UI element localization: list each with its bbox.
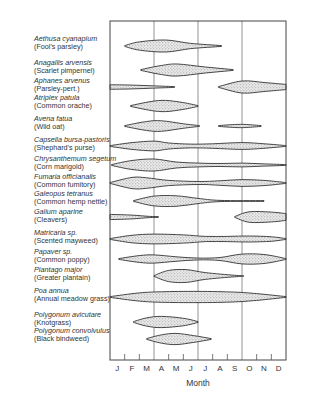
species-label: Anagallis arvensis(Scarlet pimpernel)	[34, 59, 95, 75]
month-tick-label: A	[217, 364, 223, 373]
germination-band	[154, 269, 244, 282]
species-label: Chrysanthemum segetum(Corn marigold)	[34, 155, 116, 171]
germination-band	[219, 124, 262, 127]
germination-band	[147, 333, 212, 344]
species-label: Avena fatua(Wild oat)	[34, 115, 72, 131]
species-common-name: (Wild oat)	[34, 123, 72, 131]
month-tick-label: S	[232, 364, 237, 373]
germination-band	[112, 159, 287, 171]
germination-band	[125, 40, 222, 52]
germination-band	[125, 121, 200, 132]
germination-band	[219, 81, 287, 93]
month-tick-label: J	[189, 364, 193, 373]
x-tick-labels: JFMAMJJASOND	[115, 364, 281, 373]
species-label: Matricaria sp.(Scented mayweed)	[34, 229, 98, 245]
species-common-name: (Common fumitory)	[34, 181, 96, 189]
germination-band	[134, 195, 265, 206]
species-common-name: (Greater plantain)	[34, 274, 90, 282]
month-tick-label: J	[203, 364, 207, 373]
species-label: Galeopus tetranus(Common hemp nettle)	[34, 190, 108, 206]
month-tick-label: D	[276, 364, 282, 373]
month-tick-label: J	[115, 364, 119, 373]
month-tick-label: M	[173, 364, 180, 373]
species-common-name: (Annual meadow grass)	[34, 295, 110, 303]
species-label: Atriplex patula(Common orache)	[34, 94, 92, 110]
species-label: Galium aparine(Cleavers)	[34, 208, 83, 224]
x-axis-label: Month	[186, 378, 210, 388]
germination-band	[235, 211, 286, 222]
species-common-name: (Common hemp nettle)	[34, 198, 108, 206]
month-tick-label: F	[130, 364, 135, 373]
germination-band	[134, 316, 199, 327]
month-tick-label: M	[143, 364, 150, 373]
species-common-name: (Fool's parsley)	[34, 43, 97, 51]
month-tick-label: O	[246, 364, 252, 373]
germination-band	[110, 85, 175, 90]
species-common-name: (Shephard's purse)	[34, 144, 110, 152]
germination-band	[131, 100, 199, 111]
species-common-name: (Cleavers)	[34, 216, 83, 224]
germination-band	[110, 214, 158, 219]
species-label: Capsella bursa-pastoris(Shephard's purse…	[34, 136, 110, 152]
species-common-name: (Common poppy)	[34, 256, 90, 264]
month-tick-label: N	[261, 364, 267, 373]
germination-band	[110, 234, 286, 244]
species-common-name: (Parsley-pert.)	[34, 85, 90, 93]
month-tick-label: A	[159, 364, 165, 373]
germination-band	[110, 291, 286, 302]
species-common-name: (Scarlet pimpernel)	[34, 67, 95, 75]
species-label: Polygonum convolvulus(Black bindweed)	[34, 327, 110, 343]
germination-band	[119, 254, 286, 264]
species-label: Polygonum avicutare(Knotgrass)	[34, 311, 101, 327]
species-label: Papaver sp.(Common poppy)	[34, 248, 90, 264]
species-common-name: (Black bindweed)	[34, 335, 110, 343]
species-label: Aphanes arvenus(Parsley-pert.)	[34, 77, 90, 93]
species-common-name: (Scented mayweed)	[34, 237, 98, 245]
germination-band	[141, 64, 233, 76]
species-label: Fumaria officianalis(Common fumitory)	[34, 173, 96, 189]
species-label: Aethusa cyanapium(Fool's parsley)	[34, 35, 97, 51]
species-common-name: (Corn marigold)	[34, 163, 116, 171]
species-label: Poa annua(Annual meadow grass)	[34, 287, 110, 303]
species-label: Plantago major(Greater plantain)	[34, 266, 90, 282]
species-common-name: (Common orache)	[34, 102, 92, 110]
